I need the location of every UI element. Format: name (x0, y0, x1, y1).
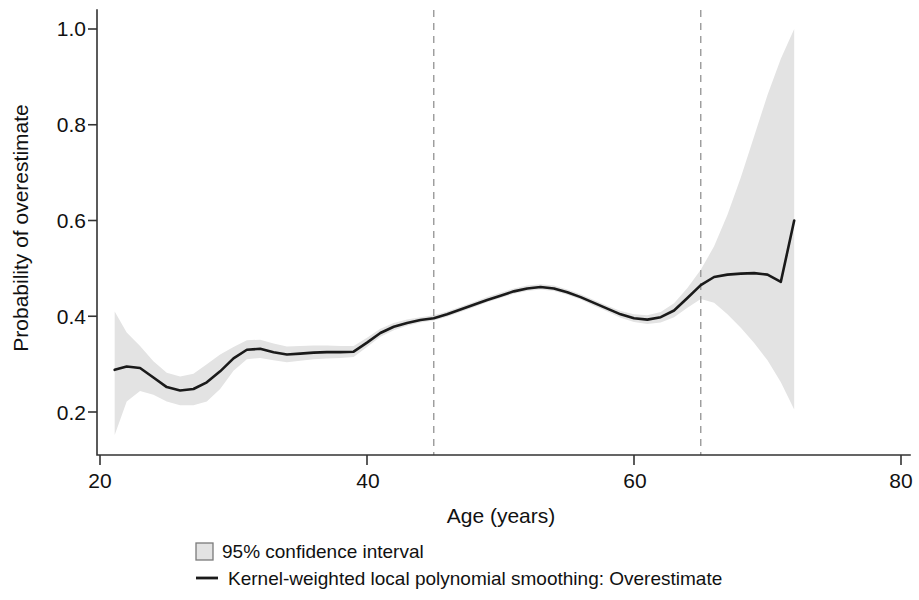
x-tick-label-20: 20 (88, 469, 111, 492)
x-tick-label-60: 60 (623, 469, 646, 492)
legend-swatch-confidence-interval (196, 543, 213, 560)
chart-figure: 1.0 0.8 0.6 0.4 0.2 20 40 60 80 Age (yea… (0, 0, 919, 600)
legend-label-fit-line: Kernel-weighted local polynomial smoothi… (228, 568, 722, 589)
y-tick-label-0.8: 0.8 (57, 113, 86, 136)
x-tick-label-80: 80 (889, 469, 912, 492)
legend-label-confidence-interval: 95% confidence interval (222, 541, 424, 562)
x-axis-title: Age (years) (447, 504, 556, 527)
y-tick-label-0.2: 0.2 (57, 401, 86, 424)
y-axis-title: Probability of overestimate (9, 104, 32, 351)
x-tick-label-40: 40 (356, 469, 379, 492)
y-tick-label-0.6: 0.6 (57, 209, 86, 232)
probability-of-overestimate-chart: 1.0 0.8 0.6 0.4 0.2 20 40 60 80 Age (yea… (0, 0, 919, 600)
y-tick-label-1.0: 1.0 (57, 17, 86, 40)
y-tick-label-0.4: 0.4 (57, 305, 87, 328)
